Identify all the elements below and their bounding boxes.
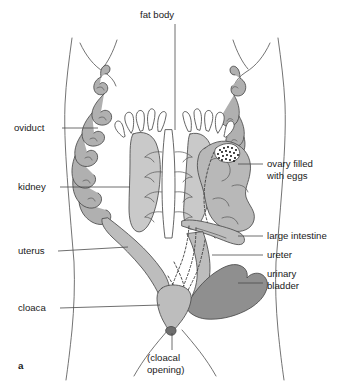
label-cloacal-opening-line1: (cloacal xyxy=(147,352,180,363)
label-urinary-bladder-line1: urinary xyxy=(267,268,297,279)
label-ovary-line1: ovary filled xyxy=(267,158,313,169)
label-cloaca: cloaca xyxy=(18,302,46,313)
anatomical-figure: fat body oviduct kidney uterus cloaca ov… xyxy=(0,0,349,390)
label-uterus: uterus xyxy=(18,245,45,256)
figure-marker: a xyxy=(18,360,24,371)
label-oviduct: oviduct xyxy=(14,122,45,133)
frog-urogenital-diagram: fat body oviduct kidney uterus cloaca ov… xyxy=(0,0,349,390)
label-ovary-line2: with eggs xyxy=(266,170,308,181)
label-urinary-bladder-line2: bladder xyxy=(267,280,300,291)
label-kidney: kidney xyxy=(18,181,46,192)
label-large-intestine: large intestine xyxy=(267,230,327,241)
label-fat-body: fat body xyxy=(140,9,174,20)
label-ureter: ureter xyxy=(267,249,293,260)
label-cloacal-opening-line2: opening) xyxy=(147,364,184,375)
egg-cluster-patch xyxy=(215,144,240,163)
